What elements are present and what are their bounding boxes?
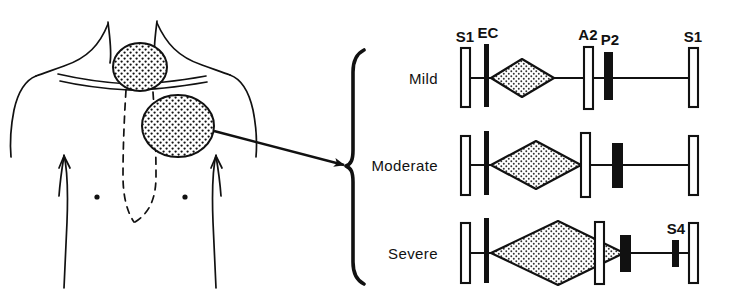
- nipple-mark-left: [94, 194, 99, 199]
- marker-ec-severe: [484, 218, 489, 283]
- marker-p2-mild: [604, 52, 613, 100]
- row-label-moderate: Moderate: [371, 157, 438, 174]
- marker-s1-severe: [461, 223, 470, 283]
- phonocardiogram-figure: Mild S1 EC A2 P2 S1 Moderate Seve: [0, 0, 733, 296]
- marker-s1-mild: [461, 48, 470, 107]
- nipple-mark-right: [182, 194, 187, 199]
- marker-label-ec-mild: EC: [477, 24, 498, 41]
- marker-p2-severe: [620, 235, 631, 272]
- marker-p2-moderate: [612, 143, 623, 188]
- suprasternal-notch-area: [113, 43, 167, 91]
- marker-a2-severe: [595, 222, 604, 284]
- marker-s1-moderate: [461, 136, 470, 195]
- marker-s1-end-mild: [689, 48, 698, 107]
- marker-label-s1-end-mild: S1: [684, 28, 703, 45]
- marker-label-s1-mild: S1: [456, 28, 475, 45]
- marker-label-s4-severe: S4: [667, 220, 686, 237]
- row-label-mild: Mild: [409, 70, 438, 87]
- left-upper-sternal-border-area: [142, 95, 214, 157]
- marker-label-a2-mild: A2: [578, 26, 598, 43]
- marker-s4-severe: [672, 240, 679, 267]
- marker-ec-mild: [484, 44, 489, 107]
- marker-s1-end-moderate: [689, 136, 698, 195]
- marker-label-p2-mild: P2: [601, 31, 620, 48]
- marker-a2-mild: [584, 47, 593, 109]
- marker-ec-moderate: [484, 131, 489, 195]
- marker-s1-end-severe: [689, 223, 698, 283]
- row-label-severe: Severe: [388, 245, 438, 262]
- marker-a2-moderate: [581, 133, 590, 197]
